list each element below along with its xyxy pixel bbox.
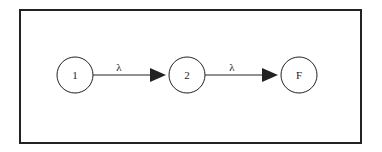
- node-2: 2: [169, 57, 205, 93]
- edge-label: λ: [116, 61, 122, 73]
- arrowhead-icon: [262, 68, 278, 82]
- edge-2-to-F: λ: [205, 61, 278, 82]
- edge-label: λ: [229, 61, 235, 73]
- state-diagram: λ λ 1 2 F: [0, 0, 382, 152]
- node-label: 2: [184, 69, 190, 81]
- edge-1-to-2: λ: [93, 61, 166, 82]
- node-1: 1: [57, 57, 93, 93]
- node-F: F: [281, 57, 317, 93]
- node-label: 1: [72, 69, 78, 81]
- arrowhead-icon: [150, 68, 166, 82]
- node-label: F: [296, 69, 302, 81]
